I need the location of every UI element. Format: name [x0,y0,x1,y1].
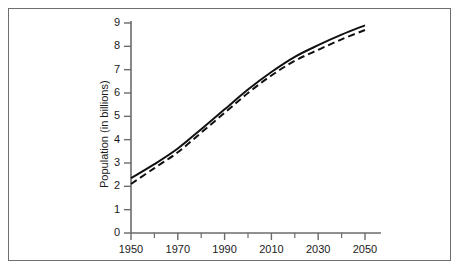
data-series-group [131,25,365,184]
series-line-upper-projection [131,25,365,178]
y-axis-title: Population (in billions) [99,80,110,188]
y-tick-label: 8 [104,40,120,51]
population-line-chart: 0123456789 195019701990201020302050 Popu… [0,0,461,272]
series-line-lower-projection [131,30,365,184]
x-tick-label: 1950 [111,244,151,255]
y-tick-label: 7 [104,64,120,75]
y-tick-label: 0 [104,227,120,238]
x-tick-label: 1970 [158,244,198,255]
x-tick-label: 2050 [345,244,385,255]
y-tick-label: 1 [104,204,120,215]
chart-canvas [0,0,461,272]
x-tick-label: 1990 [205,244,245,255]
axes-group [131,21,381,233]
y-tick-label: 9 [104,17,120,28]
figure-root: 0123456789 195019701990201020302050 Popu… [0,0,461,272]
x-tick-label: 2030 [298,244,338,255]
y-axis-ticks [124,23,131,233]
x-axis-ticks [131,233,365,240]
x-tick-label: 2010 [251,244,291,255]
